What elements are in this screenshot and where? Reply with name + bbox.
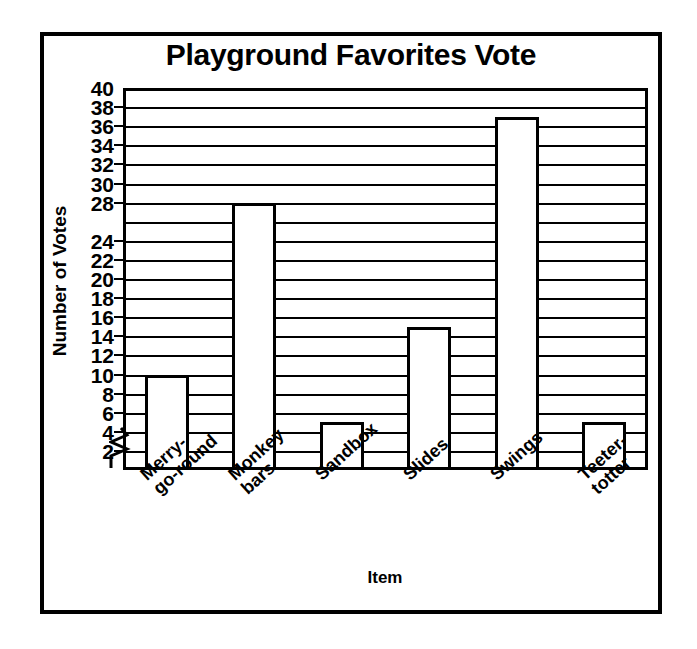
- y-tick-mark: [114, 354, 123, 356]
- y-tick-mark: [114, 183, 123, 185]
- x-axis-tick-labels: Merry- go-roundMonkey barsSandboxSlidesS…: [123, 470, 648, 566]
- gridline: [123, 184, 648, 186]
- chart-page: Playground Favorites Vote Number of Vote…: [0, 0, 697, 649]
- y-tick-mark: [114, 278, 123, 280]
- y-tick-mark: [114, 240, 123, 242]
- gridline: [123, 241, 648, 243]
- axis-break-icon: [109, 422, 131, 470]
- gridline: [123, 336, 648, 338]
- y-tick-mark: [114, 393, 123, 395]
- y-tick-mark: [114, 259, 123, 261]
- y-tick-mark: [114, 125, 123, 127]
- gridline: [123, 355, 648, 357]
- gridline: [123, 107, 648, 109]
- y-tick-mark: [114, 144, 123, 146]
- y-tick-mark: [114, 374, 123, 376]
- gridline: [123, 298, 648, 300]
- bar: [495, 117, 539, 470]
- gridline: [123, 222, 648, 224]
- gridline: [123, 126, 648, 128]
- y-tick-mark: [114, 106, 123, 108]
- y-tick-mark: [114, 297, 123, 299]
- gridline: [123, 279, 648, 281]
- x-axis-title: Item: [120, 568, 650, 588]
- gridline: [123, 413, 648, 415]
- gridline: [123, 145, 648, 147]
- gridline: [123, 317, 648, 319]
- gridline: [123, 394, 648, 396]
- chart-title: Playground Favorites Vote: [40, 38, 662, 72]
- plot-area: 4038363432302824222018161412108642: [123, 88, 648, 470]
- gridline: [123, 164, 648, 166]
- gridline: [123, 375, 648, 377]
- y-tick-mark: [114, 412, 123, 414]
- y-tick-mark: [114, 335, 123, 337]
- gridline: [123, 203, 648, 205]
- y-tick-mark: [114, 316, 123, 318]
- y-tick-mark: [114, 163, 123, 165]
- y-axis-title: Number of Votes: [49, 171, 71, 391]
- y-tick-mark: [114, 202, 123, 204]
- gridline: [123, 260, 648, 262]
